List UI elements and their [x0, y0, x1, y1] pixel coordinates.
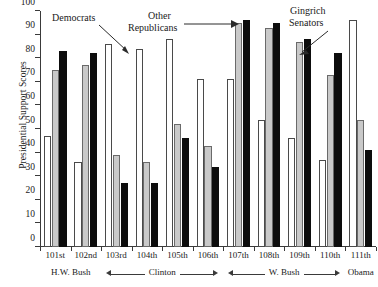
y-tick-label-60: 60: [5, 92, 35, 102]
x-category-label-105th: 105th: [162, 250, 193, 260]
x-tick-end: [376, 247, 377, 251]
y-tick-label-40: 40: [5, 139, 35, 149]
annotation-democrats-label: Democrats: [52, 12, 95, 23]
x-axis-category-labels: 101st102nd103rd104th105th106th107th108th…: [40, 250, 376, 264]
bar-110th-other-republicans: [327, 75, 334, 247]
bar-106th-other-republicans: [204, 146, 211, 247]
bar-106th-democrats: [197, 79, 204, 247]
bar-107th-gingrich-senators: [243, 20, 250, 247]
y-tick-label-20: 20: [5, 186, 35, 196]
bar-108th-gingrich-senators: [273, 23, 280, 247]
president-label-hw-bush: H.W. Bush: [51, 267, 90, 277]
y-tick-label-80: 80: [5, 45, 35, 55]
bar-101st-democrats: [44, 136, 51, 247]
bar-109th-gingrich-senators: [304, 39, 311, 247]
wbush-right-arrow-right-arrowhead: [335, 270, 340, 276]
x-category-label-107th: 107th: [223, 250, 254, 260]
y-tick-label-90: 90: [5, 21, 35, 31]
annotation-other-republicans-line2: Republicans: [128, 22, 177, 33]
bar-group-104th: [136, 11, 159, 247]
wbush-left-arrow-left-arrowhead: [228, 270, 233, 276]
bar-103rd-democrats: [105, 44, 112, 247]
bar-102nd-democrats: [74, 162, 81, 247]
bar-110th-democrats: [319, 160, 326, 247]
y-tick-label-10: 10: [5, 210, 35, 220]
bar-110th-gingrich-senators: [334, 53, 341, 247]
president-label-clinton: Clinton: [149, 267, 176, 277]
bar-109th-other-republicans: [296, 42, 303, 247]
wbush-right-arrow: [304, 274, 336, 275]
y-tick-label-100: 100: [5, 0, 35, 7]
bar-107th-other-republicans: [235, 23, 242, 247]
annotation-other-republicans-arrow: [184, 18, 242, 30]
clinton-right-arrow: [180, 274, 214, 275]
bar-105th-gingrich-senators: [182, 138, 189, 247]
bar-group-101st: [44, 11, 67, 247]
bar-102nd-other-republicans: [82, 65, 89, 247]
bar-104th-gingrich-senators: [151, 183, 158, 247]
x-category-label-106th: 106th: [193, 250, 224, 260]
clinton-left-arrow-left-arrowhead: [106, 270, 111, 276]
bar-111th-democrats: [349, 20, 356, 247]
x-category-label-111th: 111th: [345, 250, 376, 260]
bar-101st-gingrich-senators: [59, 51, 66, 247]
y-tick-label-30: 30: [5, 163, 35, 173]
y-tick-label-70: 70: [5, 68, 35, 78]
clinton-left-arrow: [110, 274, 145, 275]
y-tick-label-50: 50: [5, 116, 35, 126]
bar-104th-democrats: [136, 49, 143, 247]
x-category-label-102nd: 102nd: [71, 250, 102, 260]
bar-105th-democrats: [166, 39, 173, 247]
bar-102nd-gingrich-senators: [90, 53, 97, 247]
bar-108th-other-republicans: [265, 28, 272, 247]
annotation-other-republicans-line1: Other: [148, 10, 171, 21]
annotation-gingrich-line2: Senators: [289, 17, 323, 28]
bar-111th-gingrich-senators: [365, 150, 372, 247]
bar-group-107th: [227, 11, 250, 247]
bar-103rd-gingrich-senators: [121, 183, 128, 247]
annotation-gingrich-arrow: [296, 30, 330, 58]
president-band: H.W. Bush Clinton W. Bush Obama: [18, 267, 378, 285]
bar-group-108th: [258, 11, 281, 247]
clinton-right-arrow-right-arrowhead: [213, 270, 218, 276]
bar-105th-other-republicans: [174, 124, 181, 247]
bar-103rd-other-republicans: [113, 155, 120, 247]
presidential-support-scores-chart: Presidential Support Scores 010203040506…: [0, 0, 378, 287]
x-category-label-108th: 108th: [254, 250, 285, 260]
bar-group-105th: [166, 11, 189, 247]
y-tick-label-0: 0: [5, 234, 35, 244]
bar-109th-democrats: [288, 138, 295, 247]
x-category-label-110th: 110th: [315, 250, 346, 260]
bar-104th-other-republicans: [143, 162, 150, 247]
x-category-label-103rd: 103rd: [101, 250, 132, 260]
president-label-obama: Obama: [348, 267, 374, 277]
bar-106th-gingrich-senators: [212, 167, 219, 247]
president-label-w-bush: W. Bush: [269, 267, 300, 277]
annotation-gingrich-line1: Gingrich: [290, 5, 326, 16]
x-category-label-104th: 104th: [132, 250, 163, 260]
bar-111th-other-republicans: [357, 120, 364, 247]
bar-group-111th: [349, 11, 372, 247]
bar-101st-other-republicans: [52, 70, 59, 247]
wbush-left-arrow: [232, 274, 265, 275]
x-category-label-101st: 101st: [40, 250, 71, 260]
bar-group-106th: [197, 11, 220, 247]
x-category-label-109th: 109th: [284, 250, 315, 260]
bar-107th-democrats: [227, 79, 234, 247]
bar-108th-democrats: [258, 120, 265, 247]
bar-group-102nd: [74, 11, 97, 247]
